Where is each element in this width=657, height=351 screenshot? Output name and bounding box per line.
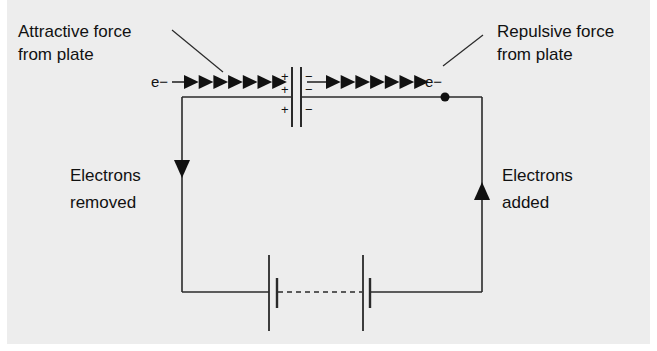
left-flow-arrow-icon — [243, 75, 258, 89]
left-flow-arrow-icon — [228, 75, 243, 89]
plate-charge-positive-3: + — [281, 102, 289, 117]
right-flow-arrow-icon — [326, 75, 341, 89]
right-flow-arrow-icon — [355, 75, 370, 89]
attractive-force-label-line2: from plate — [18, 45, 94, 64]
attractive-force-label-line1: Attractive force — [18, 22, 131, 41]
electrons-removed-label-line2: removed — [70, 193, 136, 212]
left-flow-arrow-icon — [199, 75, 214, 89]
electron-flow-arrows-right — [326, 75, 429, 89]
right-flow-arrow-icon — [400, 75, 415, 89]
electrons-added-label-line2: added — [502, 193, 549, 212]
repulsive-leader-line — [443, 35, 483, 66]
electrons-added-label-line1: Electrons — [502, 166, 573, 185]
attractive-leader-line — [172, 30, 223, 72]
left-flow-arrow-icon — [184, 75, 199, 89]
plate-charge-positive-2: + — [281, 82, 289, 97]
electron-flow-arrows-left — [184, 75, 287, 89]
arrow-down-icon — [174, 160, 190, 178]
electron-symbol-left: e− — [151, 73, 168, 90]
junction-dot — [441, 93, 450, 102]
right-flow-arrow-icon — [341, 75, 356, 89]
right-flow-arrow-icon — [370, 75, 385, 89]
electrons-removed-label-line1: Electrons — [70, 166, 141, 185]
left-flow-arrow-icon — [213, 75, 228, 89]
electron-symbol-right: e− — [425, 73, 442, 90]
plate-charge-negative-3: − — [305, 102, 313, 117]
right-flow-arrow-icon — [385, 75, 400, 89]
repulsive-force-label-line2: from plate — [497, 45, 573, 64]
arrow-up-icon — [474, 182, 490, 200]
capacitor-circuit-diagram: + + + − − − e− e− Attractive force from … — [0, 0, 657, 351]
plate-charge-negative-2: − — [305, 82, 313, 97]
left-flow-arrow-icon — [258, 75, 273, 89]
repulsive-force-label-line1: Repulsive force — [497, 22, 614, 41]
